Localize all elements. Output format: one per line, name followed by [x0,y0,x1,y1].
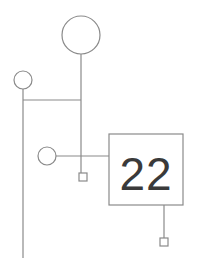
tiny-square-node-right[interactable] [160,238,168,246]
labeled-square-text: 22 [119,148,172,200]
diagram-canvas: 22 [0,0,199,266]
tiny-square-node-left[interactable] [79,173,87,181]
pedigree-diagram: 22 [0,0,199,266]
small-circle-node-left[interactable] [14,71,32,89]
large-circle-node[interactable] [62,16,100,54]
small-circle-node-middle[interactable] [38,147,56,165]
